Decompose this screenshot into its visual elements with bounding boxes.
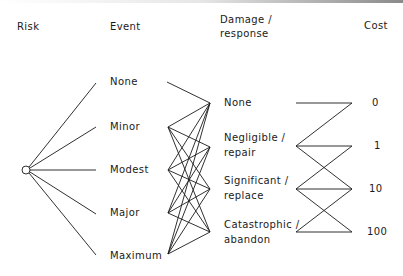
damage-negligible-line1: Negligible / (224, 131, 285, 145)
header-damage-line2: response (220, 27, 269, 41)
damage-significant-line1: Significant / (224, 174, 289, 188)
header-damage-line1: Damage / (220, 13, 272, 27)
cost-10: 10 (369, 182, 383, 196)
damage-catastrophic-line2: abandon (224, 233, 271, 247)
damage-catastrophic-line1: Catastrophic / (224, 218, 299, 232)
risk-branches (29, 83, 96, 255)
event-minor: Minor (110, 120, 140, 134)
header-risk: Risk (17, 20, 39, 34)
header-event: Event (110, 20, 141, 34)
event-modest: Modest (110, 163, 149, 177)
damage-negligible-line2: repair (224, 146, 256, 160)
damage-none: None (224, 96, 252, 110)
event-major: Major (110, 206, 140, 220)
event-maximum: Maximum (110, 249, 162, 263)
damage-significant-line2: replace (224, 189, 264, 203)
cost-100: 100 (367, 225, 387, 239)
event-none: None (110, 75, 138, 89)
tree-connectors (0, 0, 403, 276)
event-damage-branches (167, 82, 210, 254)
header-cost: Cost (364, 19, 388, 33)
cost-1: 1 (374, 139, 381, 153)
risk-root-node (22, 166, 30, 174)
damage-cost-branches (296, 103, 352, 232)
cost-0: 0 (372, 96, 379, 110)
